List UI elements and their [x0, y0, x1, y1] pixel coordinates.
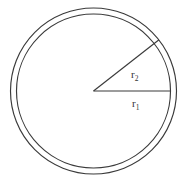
diagram-canvas: r2 r1 [0, 0, 187, 182]
radius-r2-label: r2 [131, 68, 139, 83]
radius-r2-label-subscript: 2 [135, 74, 139, 83]
radius-r1-label: r1 [132, 97, 140, 112]
radius-r1-label-subscript: 1 [136, 103, 140, 112]
radius-r2-line [94, 40, 160, 91]
concentric-circles-figure: r2 r1 [0, 0, 187, 182]
